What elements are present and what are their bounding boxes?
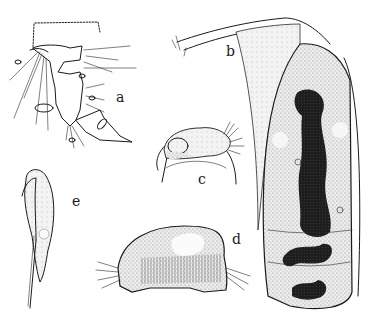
figure-a-label: a xyxy=(116,89,124,105)
illustration-plate: a b c d xyxy=(0,0,377,323)
figure-a: a xyxy=(10,22,136,148)
figure-e-label: e xyxy=(72,193,80,209)
figure-c-label: c xyxy=(198,171,206,187)
figure-c: c xyxy=(157,122,244,187)
figure-e: e xyxy=(22,170,80,308)
figure-b-label: b xyxy=(226,43,235,59)
figure-d: d xyxy=(96,226,250,292)
figure-d-label: d xyxy=(232,231,241,247)
